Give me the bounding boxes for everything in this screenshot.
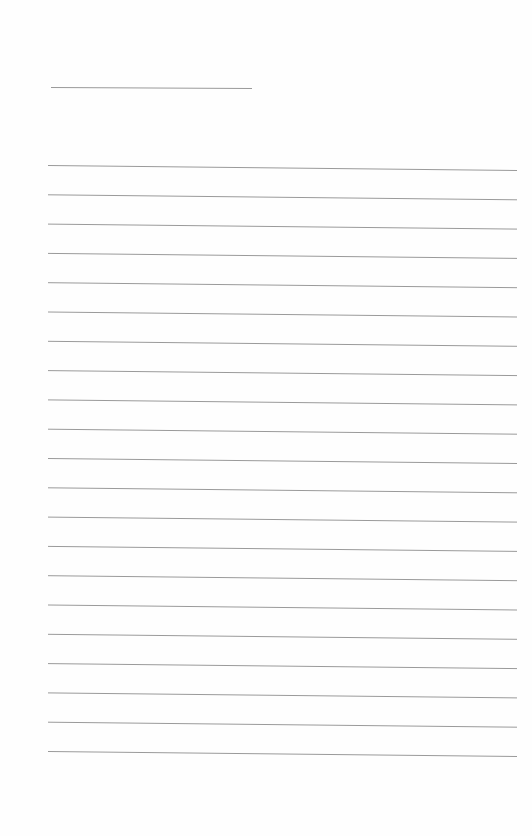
ruled-line: [48, 371, 517, 376]
ruled-line: [48, 429, 517, 434]
ruled-line: [48, 752, 517, 757]
ruled-line: [48, 605, 517, 610]
ruled-lines: [0, 0, 532, 836]
ruled-line: [48, 576, 517, 581]
ruled-line: [48, 693, 517, 698]
ruled-line: [48, 166, 517, 171]
ruled-line: [48, 253, 517, 258]
ruled-line: [48, 195, 517, 200]
ruled-line: [48, 634, 517, 639]
ruled-line: [48, 722, 517, 727]
ruled-line: [48, 341, 517, 346]
ruled-line: [48, 664, 517, 669]
ruled-line: [48, 283, 517, 288]
lined-paper-page: [0, 0, 532, 836]
ruled-line: [48, 488, 517, 493]
ruled-line: [48, 224, 517, 229]
ruled-line: [48, 459, 517, 464]
header-line: [51, 88, 252, 89]
ruled-line: [48, 546, 517, 551]
ruled-line: [48, 517, 517, 522]
ruled-line: [48, 312, 517, 317]
ruled-line: [48, 400, 517, 405]
